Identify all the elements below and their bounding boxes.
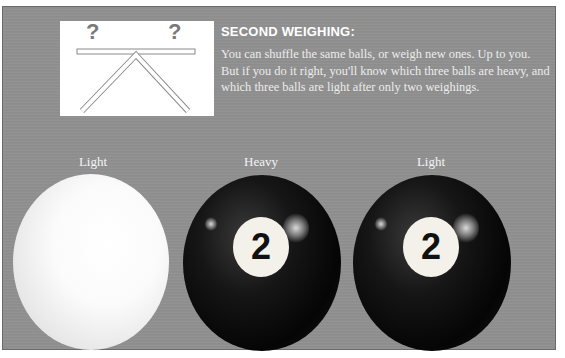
black-ball-icon: 2 [353, 175, 511, 351]
info-panel: ? ? SECOND WEIGHING: You can shuffle the… [2, 6, 556, 350]
instruction-text: You can shuffle the same balls, or weigh… [221, 46, 551, 96]
ball-highlight [375, 217, 387, 231]
ball-number: 2 [403, 217, 459, 277]
black-ball-icon: 2 [183, 175, 341, 351]
ball-highlight [205, 217, 217, 231]
ball-label-1: Light [53, 154, 133, 170]
balance-scale-icon [60, 21, 214, 116]
left-question-mark: ? [86, 19, 99, 45]
white-ball-icon [13, 174, 169, 350]
balance-scale-diagram: ? ? [60, 21, 214, 116]
right-question-mark: ? [168, 19, 181, 45]
section-heading: SECOND WEIGHING: [221, 24, 355, 39]
ball-label-2: Heavy [221, 154, 301, 170]
ball-number: 2 [233, 217, 289, 277]
ball-label-3: Light [391, 154, 471, 170]
